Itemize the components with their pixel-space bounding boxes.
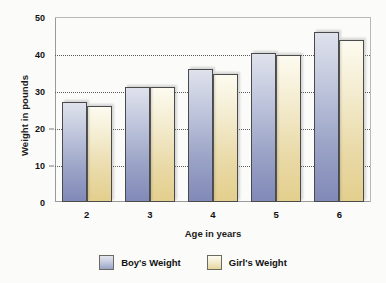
x-tick-label-2: 2 [55,209,118,220]
plot-area: 01020304050 23456 [55,17,371,202]
x-tick-label-6: 6 [308,209,371,220]
bar-girl-age-5 [276,55,301,202]
bar-group: 6 [308,18,371,202]
legend-item-girls-weight[interactable]: Girl's Weight [207,255,287,270]
y-tick-mark-20 [49,129,54,130]
bar-boy-age-3 [125,87,150,202]
y-tick-label-20: 20 [35,124,45,134]
bar-boy-age-6 [314,32,339,202]
chart-legend: Boy's WeightGirl's Weight [0,255,386,270]
legend-label: Boy's Weight [121,257,181,268]
x-tick-label-4: 4 [181,209,244,220]
x-axis-title: Age in years [55,228,371,239]
bar-chart: Weight in pounds 01020304050 23456 Age i… [0,0,386,283]
bar-boy-age-5 [251,53,276,202]
y-axis-title: Weight in pounds [19,46,30,186]
bar-group: 5 [245,18,308,202]
bar-girl-age-2 [87,106,112,202]
bar-group: 3 [118,18,181,202]
y-tick-label-0: 0 [40,198,45,208]
y-tick-label-50: 50 [35,13,45,23]
legend-item-boys-weight[interactable]: Boy's Weight [99,255,181,270]
bar-boy-age-4 [188,69,213,202]
x-tick-label-5: 5 [245,209,308,220]
bar-girl-age-3 [150,87,175,202]
legend-swatch-icon [99,255,114,270]
bar-girl-age-6 [339,40,364,202]
y-tick-mark-10 [49,166,54,167]
y-tick-label-30: 30 [35,87,45,97]
bar-boy-age-2 [62,102,87,202]
bar-group: 4 [181,18,244,202]
x-tick-label-3: 3 [118,209,181,220]
bar-group: 2 [55,18,118,202]
legend-label: Girl's Weight [229,257,287,268]
y-tick-label-10: 10 [35,161,45,171]
y-tick-label-40: 40 [35,50,45,60]
bar-girl-age-4 [213,74,238,202]
legend-swatch-icon [207,255,222,270]
